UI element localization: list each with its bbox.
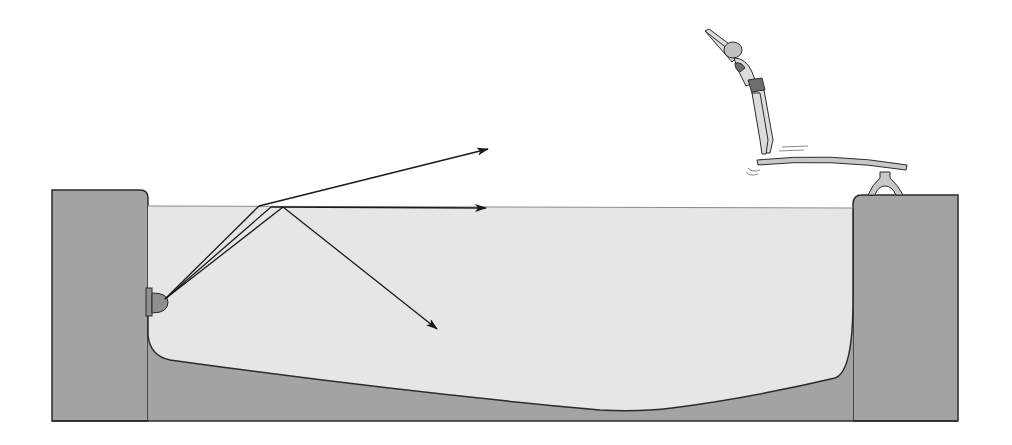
pool-wall-right: [853, 195, 958, 421]
light-mount: [146, 288, 152, 316]
diver-head: [724, 42, 742, 58]
pool-diagram: [0, 0, 1012, 445]
diving-board-stand: [868, 172, 903, 195]
pool-wall-left: [52, 190, 148, 421]
refracted-ray: [259, 149, 488, 206]
diving-board: [757, 157, 907, 170]
diver: [705, 29, 773, 154]
